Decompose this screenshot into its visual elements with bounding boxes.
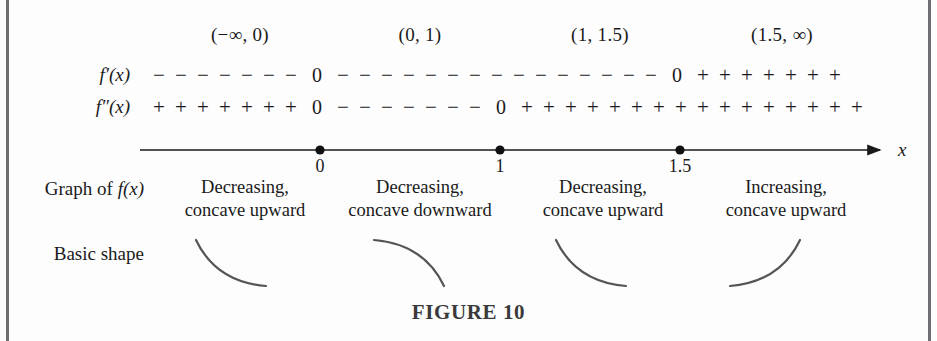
arc-decreasing-concave-up-1 — [196, 240, 266, 286]
arc-decreasing-concave-down — [374, 240, 444, 286]
figure-10-sign-chart: (−∞, 0) (0, 1) (1, 1.5) (1.5, ∞) f′(x) −… — [0, 0, 937, 341]
basic-shape-arcs — [0, 0, 937, 341]
figure-caption: FIGURE 10 — [0, 300, 937, 325]
arc-decreasing-concave-up-2 — [556, 240, 626, 286]
arc-increasing-concave-up — [730, 240, 800, 286]
